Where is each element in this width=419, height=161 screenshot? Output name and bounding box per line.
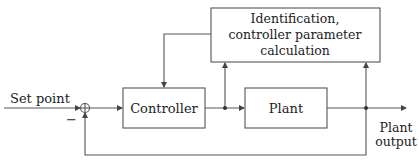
setpoint-label: Set point — [10, 91, 71, 106]
identification-label-line1: Identification, — [251, 11, 340, 26]
branch-point-output — [364, 106, 368, 110]
feedback-line — [85, 108, 366, 155]
identification-label-line3: calculation — [260, 43, 330, 58]
identification-label-line2: controller parameter — [229, 27, 362, 42]
plant-label: Plant — [269, 101, 304, 116]
parameter-update-line — [164, 34, 211, 87]
plant-output-label-line2: output — [375, 134, 417, 149]
plant-output-label-line1: Plant — [380, 120, 413, 135]
controller-label: Controller — [130, 101, 198, 116]
summing-junction — [81, 104, 90, 113]
minus-sign: − — [66, 112, 77, 127]
block-diagram: Set point − Controller Plant Identificat… — [0, 0, 419, 161]
branch-point-control — [223, 106, 227, 110]
